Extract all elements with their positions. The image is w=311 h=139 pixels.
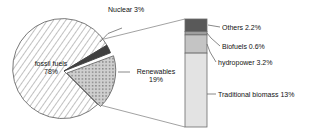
leader-line-bottom (96, 104, 185, 127)
bar-label-hydropower: hydropower 3.2% (218, 59, 272, 67)
pie-label-renewables: Renewables 19% (131, 68, 181, 84)
bar-segment-hydropower[interactable] (185, 35, 207, 53)
bar-label-biofuels: Biofuels 0.6% (222, 43, 265, 51)
connector-others (208, 25, 220, 27)
bar-of-pie-chart: fossil fuels 78% Nuclear 3% Renewables 1… (0, 0, 311, 139)
pie-label-fossil-fuels-value: 78% (25, 68, 77, 76)
pie-label-renewables-value: 19% (131, 76, 181, 84)
pie-label-fossil-fuels: fossil fuels 78% (25, 60, 77, 76)
leader-line-top (104, 19, 185, 39)
connector-hydropower (207, 44, 216, 62)
pie-label-renewables-name: Renewables (131, 68, 181, 76)
bar-segment-others[interactable] (185, 19, 207, 32)
pie-label-nuclear: Nuclear 3% (108, 6, 144, 14)
stacked-bar (185, 19, 207, 127)
pie-label-fossil-fuels-name: fossil fuels (25, 60, 77, 68)
bar-segment-biofuels[interactable] (185, 32, 207, 35)
bar-segment-traditional-biomass[interactable] (185, 53, 207, 127)
bar-label-others: Others 2.2% (222, 24, 261, 32)
bar-label-traditional-biomass: Traditional biomass 13% (218, 91, 294, 99)
connector-biofuels (207, 33, 220, 46)
